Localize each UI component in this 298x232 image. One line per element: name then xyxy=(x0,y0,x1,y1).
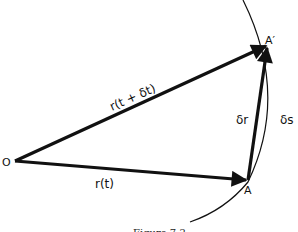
label-origin: O xyxy=(2,156,11,169)
label-point-a: A xyxy=(244,184,252,197)
label-delta-s: δs xyxy=(280,113,294,127)
vector-r-t-plus-dt xyxy=(15,46,266,161)
label-delta-r: δr xyxy=(236,113,248,127)
vector-diagram: O A A′ r(t) r(t + δt) δr δs Figure 7.2 xyxy=(0,0,298,232)
figure-caption: Figure 7.2 xyxy=(133,227,186,232)
trajectory-arc xyxy=(190,0,268,222)
label-point-a-prime: A′ xyxy=(265,34,276,47)
label-r-t: r(t) xyxy=(95,177,114,191)
vector-r-t xyxy=(15,161,246,180)
